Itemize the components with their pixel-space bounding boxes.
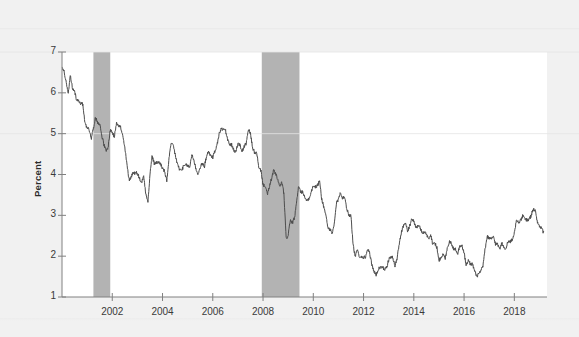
x-tick-label: 2010	[295, 306, 331, 317]
x-tick-label: 2004	[145, 306, 181, 317]
x-tick-label: 2018	[496, 306, 532, 317]
y-tick-label: 6	[44, 86, 56, 97]
treasury-yield-line-chart	[0, 0, 579, 337]
recession-2001	[93, 52, 110, 297]
x-tick-label: 2014	[396, 306, 432, 317]
y-tick-label: 3	[44, 208, 56, 219]
y-tick-label: 5	[44, 127, 56, 138]
x-tick-label: 2006	[195, 306, 231, 317]
x-tick-label: 2012	[346, 306, 382, 317]
y-tick-label: 2	[44, 249, 56, 260]
x-tick-label: 2008	[245, 306, 281, 317]
y-axis-label: Percent	[32, 160, 43, 196]
y-tick-label: 1	[44, 290, 56, 301]
scan-artifact-bottom	[0, 318, 579, 321]
x-tick-label: 2002	[94, 306, 130, 317]
recession-2008	[262, 52, 300, 297]
y-tick-label: 7	[44, 45, 56, 56]
x-tick-label: 2016	[446, 306, 482, 317]
scan-artifact-top	[0, 28, 579, 30]
y-tick-label: 4	[44, 168, 56, 179]
chart-figure: Percent 1234567 200220042006200820102012…	[0, 0, 579, 337]
